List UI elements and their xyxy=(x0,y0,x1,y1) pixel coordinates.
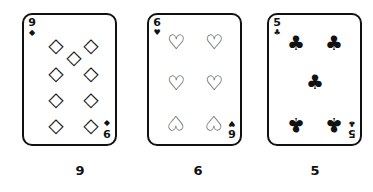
card-caption: 9 xyxy=(70,163,90,178)
heart-icon: ♡ xyxy=(204,73,224,93)
club-icon: ♣ xyxy=(286,33,306,53)
diamond-icon: ◇ xyxy=(46,115,66,135)
rank-index-bottom: 9 ◆ xyxy=(102,118,112,138)
rank-text: 5 xyxy=(347,128,357,138)
card-caption: 6 xyxy=(188,163,208,178)
rank-index-bottom: 6 ♥ xyxy=(227,118,237,138)
club-icon: ♣ xyxy=(305,72,325,92)
club-icon: ♣ xyxy=(347,118,357,128)
club-icon: ♣ xyxy=(324,115,344,135)
rank-text: 6 xyxy=(227,128,237,138)
rank-index-top: 5 ♣ xyxy=(272,18,282,38)
diamond-icon: ◇ xyxy=(81,63,101,83)
rank-index-bottom: 5 ♣ xyxy=(347,118,357,138)
heart-icon: ♥ xyxy=(227,118,237,128)
diamond-icon: ◇ xyxy=(81,115,101,135)
rank-index-top: 6 ♥ xyxy=(152,18,162,38)
club-icon: ♣ xyxy=(324,33,344,53)
diamond-icon: ◆ xyxy=(27,28,37,38)
diamond-icon: ◇ xyxy=(81,89,101,109)
club-icon: ♣ xyxy=(272,28,282,38)
rank-index-top: 9 ◆ xyxy=(27,18,37,38)
card-nine-of-diamonds: 9 ◆ ◇ ◇ ◇ ◇ ◇ ◇ ◇ ◇ ◇ 9 ◆ xyxy=(22,13,117,146)
heart-icon: ♥ xyxy=(152,28,162,38)
card-five-of-clubs: 5 ♣ ♣ ♣ ♣ ♣ ♣ 5 ♣ xyxy=(267,13,362,146)
diamond-icon: ◇ xyxy=(81,35,101,55)
diamond-icon: ◇ xyxy=(46,35,66,55)
heart-icon: ♡ xyxy=(204,113,224,133)
heart-icon: ♡ xyxy=(166,113,186,133)
club-icon: ♣ xyxy=(286,115,306,135)
diamond-icon: ◇ xyxy=(46,63,66,83)
heart-icon: ♡ xyxy=(166,32,186,52)
rank-text: 5 xyxy=(272,18,282,28)
rank-text: 9 xyxy=(27,18,37,28)
rank-text: 6 xyxy=(152,18,162,28)
rank-text: 9 xyxy=(102,128,112,138)
heart-icon: ♡ xyxy=(204,32,224,52)
card-six-of-hearts: 6 ♥ ♡ ♡ ♡ ♡ ♡ ♡ 6 ♥ xyxy=(147,13,242,146)
heart-icon: ♡ xyxy=(166,73,186,93)
diamond-icon: ◇ xyxy=(46,89,66,109)
card-caption: 5 xyxy=(305,163,325,178)
